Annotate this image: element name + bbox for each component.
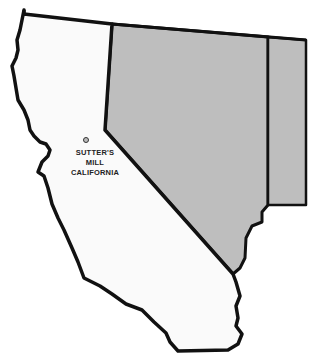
utah-region (268, 37, 306, 205)
label-line-3: CALIFORNIA (68, 168, 122, 178)
sutters-mill-label: SUTTER'S MILL CALIFORNIA (68, 148, 122, 178)
location-circle-icon (83, 137, 89, 143)
label-line-1: SUTTER'S (68, 148, 122, 158)
map-canvas (0, 0, 312, 353)
label-line-2: MILL (68, 158, 122, 168)
